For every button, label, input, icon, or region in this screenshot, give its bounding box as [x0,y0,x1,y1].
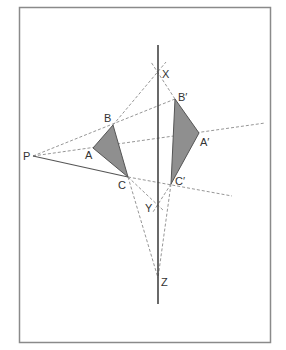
label-C: C [118,179,126,191]
diagram-frame [20,8,271,343]
diagram-canvas: P A B C A′ B′ C′ X Y Z [0,0,286,350]
label-C-prime: C′ [175,175,185,187]
label-A: A [85,149,93,161]
label-Y: Y [145,202,153,214]
label-P: P [23,150,30,162]
label-A-prime: A′ [200,136,209,148]
label-X: X [162,68,170,80]
label-B-prime: B′ [178,91,187,103]
label-Z: Z [161,276,168,288]
label-B: B [104,112,111,124]
